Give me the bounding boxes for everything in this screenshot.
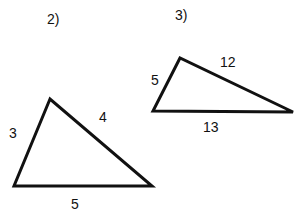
problem-2-number: 2) [47, 12, 59, 26]
triangle-2-side-bottom: 5 [71, 197, 79, 211]
problem-3-number: 3) [175, 8, 187, 22]
triangle-3-side-right: 12 [220, 55, 236, 69]
triangle-2-side-right: 4 [99, 110, 107, 124]
triangles-canvas [0, 0, 305, 211]
triangle-3-side-left: 5 [151, 73, 159, 87]
triangle-3-side-bottom: 13 [203, 120, 219, 134]
triangle-2-side-left: 3 [9, 126, 17, 140]
triangle-2 [14, 99, 152, 186]
